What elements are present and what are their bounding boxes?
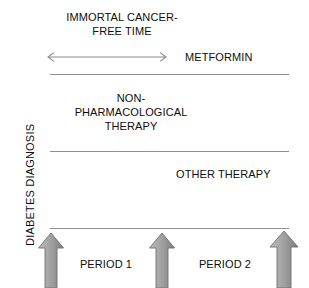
band-label-other-therapy: OTHER THERAPY [176, 168, 271, 181]
band-label-non-pharmacological-line3: THERAPY [31, 120, 231, 133]
band-label-non-pharmacological-line2: PHARMACOLOGICAL [31, 106, 231, 119]
immortal-time-bias-diagram: DIABETES DIAGNOSIS IMMORTAL CANCER- FREE… [0, 0, 309, 288]
axis-label-diabetes-diagnosis: DIABETES DIAGNOSIS [24, 124, 36, 246]
immortal-time-label-line2: FREE TIME [22, 25, 222, 38]
immortal-time-label-line1: IMMORTAL CANCER- [22, 11, 222, 24]
band-divider-1 [50, 74, 289, 75]
band-divider-2 [50, 151, 289, 152]
band-label-metformin: METFORMIN [185, 51, 253, 64]
period-label-1: PERIOD 1 [46, 258, 166, 271]
band-label-non-pharmacological-line1: NON- [31, 92, 231, 105]
double-headed-horizontal-arrow-icon [44, 50, 170, 64]
band-divider-3 [50, 228, 289, 229]
period-label-2: PERIOD 2 [165, 258, 285, 271]
